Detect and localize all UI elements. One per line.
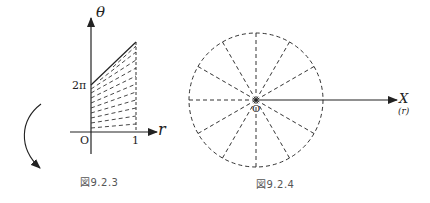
origin-label-right: O bbox=[252, 103, 260, 114]
one-tick-label: 1 bbox=[132, 134, 139, 147]
theta-axis-label: θ bbox=[96, 3, 105, 21]
two-pi-tick-label: 2π bbox=[72, 79, 86, 92]
x-axis-sublabel: (r) bbox=[398, 106, 409, 116]
upper-boundary-line bbox=[91, 42, 136, 85]
r-axis-label: r bbox=[158, 120, 166, 139]
right-figure bbox=[189, 33, 397, 167]
diagram-canvas bbox=[0, 0, 430, 203]
caption-left: 図9.2.3 bbox=[80, 174, 118, 189]
origin-point bbox=[254, 98, 257, 101]
hatched-region bbox=[91, 46, 136, 128]
curved-arrow-icon bbox=[24, 104, 41, 168]
caption-right: 図9.2.4 bbox=[256, 176, 294, 191]
origin-label-left: O bbox=[80, 134, 89, 147]
x-axis-label: X bbox=[399, 91, 408, 106]
